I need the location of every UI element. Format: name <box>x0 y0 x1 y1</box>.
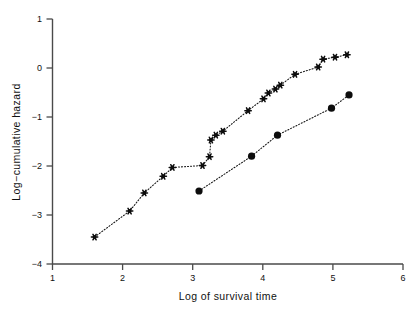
data-point-star <box>126 208 132 214</box>
data-point-star <box>332 54 338 60</box>
data-point-circle <box>274 132 281 139</box>
data-point-circle <box>195 187 202 194</box>
series-line <box>95 55 347 237</box>
chart-figure: −4−3−2−101 123456 Log of survival time L… <box>0 0 420 313</box>
y-axis-title: Log−cumulative hazard <box>10 83 22 200</box>
data-point-star <box>344 52 350 58</box>
data-point-star <box>260 96 266 102</box>
data-point-circle <box>248 153 255 160</box>
data-point-star <box>199 163 205 169</box>
y-axis-ticks: −4−3−2−101 <box>32 14 53 269</box>
y-tick-label: −1 <box>32 112 42 122</box>
x-axis-title: Log of survival time <box>179 290 277 302</box>
data-point-star <box>315 64 321 70</box>
y-tick-label: 1 <box>37 14 42 24</box>
series-group-star <box>91 52 350 240</box>
data-point-star <box>160 174 166 180</box>
data-point-star <box>206 154 212 160</box>
x-tick-label: 3 <box>190 273 195 283</box>
series-line <box>199 95 349 191</box>
data-point-circle <box>345 91 352 98</box>
x-tick-label: 6 <box>400 273 405 283</box>
data-point-star <box>213 132 219 138</box>
x-tick-label: 5 <box>330 273 335 283</box>
y-tick-label: 0 <box>37 63 42 73</box>
x-tick-label: 2 <box>120 273 125 283</box>
data-series-layer <box>91 52 352 240</box>
y-tick-label: −2 <box>32 161 42 171</box>
survival-scatter-plot: −4−3−2−101 123456 Log of survival time L… <box>0 0 420 313</box>
data-point-circle <box>328 105 335 112</box>
y-tick-label: −4 <box>32 259 42 269</box>
y-tick-label: −3 <box>32 210 42 220</box>
series-group-circle <box>195 91 352 194</box>
data-point-star <box>320 56 326 62</box>
x-axis-ticks: 123456 <box>50 264 406 283</box>
x-tick-label: 4 <box>260 273 265 283</box>
x-tick-label: 1 <box>50 273 55 283</box>
